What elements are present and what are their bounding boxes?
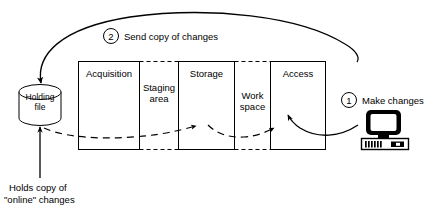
stage-label-acquisition: Acquisition	[79, 68, 139, 79]
annotation-label-make-changes: Make changes	[362, 95, 424, 106]
stage-label-storage: Storage	[179, 68, 234, 79]
diagram-canvas: Holding file Acquisition Staging area St…	[0, 0, 437, 213]
annotation-number-2: 2	[104, 31, 118, 42]
stage-label-access: Access	[271, 68, 325, 79]
caption-line-2: "online" changes	[4, 194, 75, 206]
annotation-number-1: 1	[342, 95, 356, 106]
stage-label-staging-area: Staging area	[140, 82, 178, 104]
stage-label-work-space: Work space	[235, 90, 270, 112]
desktop-computer-icon	[362, 110, 409, 150]
caption-line-1: Holds copy of	[9, 182, 67, 194]
holding-file-label: Holding file	[17, 93, 63, 112]
annotation-label-send-copy: Send copy of changes	[124, 31, 218, 42]
